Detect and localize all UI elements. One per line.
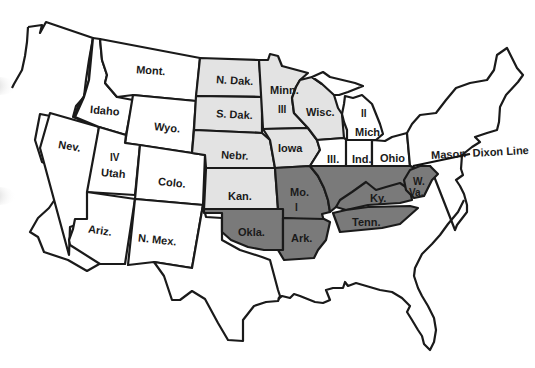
us-map: Mont. Idaho Wyo. Nev. IV Utah Colo. Ariz… (0, 0, 535, 368)
label-mont: Mont. (136, 63, 166, 77)
label-ind: Ind. (352, 153, 372, 165)
label-okla: Okla. (238, 226, 265, 238)
label-iowa: Iowa (278, 142, 303, 154)
label-utah: Utah (101, 166, 127, 180)
label-kan: Kan. (228, 190, 252, 202)
label-tenn: Tenn. (352, 216, 381, 228)
state-kan (204, 168, 278, 209)
label-mich: Mich. (355, 126, 383, 138)
label-minn: Minn. (270, 84, 299, 96)
label-nebr: Nebr. (221, 148, 249, 161)
label-mich-roman: II (361, 108, 367, 119)
label-wva-1: W. (413, 176, 425, 187)
label-wisc: Wisc. (306, 106, 335, 118)
label-idaho: Idaho (90, 103, 121, 118)
label-ill: Ill. (327, 153, 339, 165)
label-sdak: S. Dak. (216, 107, 253, 121)
label-mo-roman: I (295, 202, 298, 213)
label-wva-2: Va. (409, 187, 424, 198)
label-ky: Ky. (370, 192, 386, 204)
label-utah-roman: IV (110, 152, 120, 163)
northeast-outline (407, 48, 523, 230)
west-coast-inner (12, 27, 28, 88)
label-minn-roman: III (278, 104, 287, 115)
label-ndak: N. Dak. (216, 73, 254, 87)
label-ark: Ark. (291, 232, 312, 244)
label-ohio: Ohio (380, 152, 405, 164)
scan-shadow-bottom (0, 187, 16, 205)
label-mo: Mo. (290, 186, 309, 198)
